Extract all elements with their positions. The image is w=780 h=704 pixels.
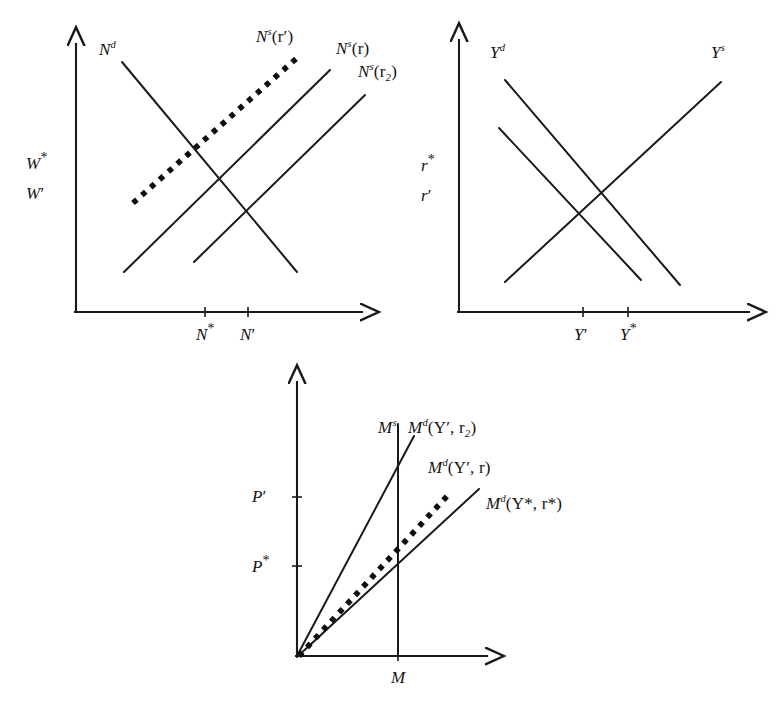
label-ys: Ys (711, 44, 725, 61)
label-n-prime: N′ (240, 326, 255, 343)
label-m-axis: M (391, 669, 405, 686)
label-w-prime: W′ (26, 185, 44, 202)
label-md-yprime-r2: Md(Y′, r2) (408, 419, 476, 436)
curve-yd-shifted (499, 128, 641, 280)
label-y-prime: Y′ (574, 326, 588, 343)
label-r-star: r* (421, 157, 435, 174)
label-ns-rprime: Ns(r′) (256, 28, 293, 45)
panel-labor-market-curves (122, 57, 365, 272)
panel-goods-market-curves (499, 80, 721, 285)
label-r-prime: r′ (421, 187, 432, 204)
label-ns-r2: Ns(r2) (358, 63, 397, 80)
curve-md-yprime-r-dotted (299, 494, 449, 656)
curve-md-ystar-rstar (297, 489, 479, 657)
label-md-ystar-rstar: Md(Y*, r*) (486, 495, 562, 512)
label-y-star: Y* (620, 326, 637, 343)
curve-nd (122, 62, 297, 272)
curve-yd-initial (505, 80, 680, 285)
label-md-yprime-r: Md(Y′, r) (428, 459, 491, 476)
panel-goods-market-axes (458, 40, 749, 317)
label-ns-r: Ns(r) (336, 40, 369, 57)
label-p-prime: P′ (252, 488, 267, 505)
label-p-star: P* (252, 558, 270, 575)
label-ms: Ms (378, 419, 397, 436)
label-nd: Nd (99, 41, 116, 58)
economics-figure: Nd Ns(r′) Ns(r) Ns(r2) W* W′ N* N′ Yd Ys… (0, 0, 780, 704)
diagram-canvas (0, 0, 780, 704)
curve-ys (505, 82, 721, 282)
label-yd: Yd (490, 44, 505, 61)
label-n-star: N* (196, 326, 215, 343)
label-w-star: W* (26, 155, 48, 172)
curve-md-yprime-r2 (297, 436, 414, 656)
